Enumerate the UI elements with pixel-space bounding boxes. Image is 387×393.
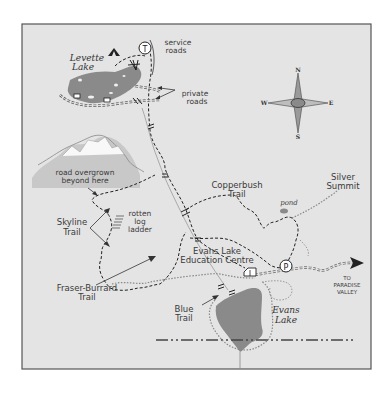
compass-south: S [296,133,300,140]
label-skyline-trail-2: Trail [62,227,80,237]
label-evans-lake-centre-2: Education Centre [180,255,253,265]
label-levette-lake-2: Lake [71,62,94,72]
label-to-paradise-valley-3: VALLEY [337,289,358,295]
label-skyline-trail: Skyline [57,217,87,227]
label-road-overgrown-2: beyond here [61,176,109,185]
label-to-paradise-valley: TO [342,275,351,281]
label-fraser-burrard-trail-2: Trail [77,292,95,302]
pond [280,209,288,214]
label-silver-summit-2: Summit [326,181,360,191]
label-service-roads-2: roads [166,46,187,55]
svg-text:T: T [142,45,148,54]
compass-north: N [295,66,301,73]
label-private-roads-2: roads [187,97,208,106]
trail-map: T P N S W [0,0,387,393]
label-copperbush-trail-2: Trail [227,189,245,199]
label-evans-lake-2: Lake [274,315,297,325]
map-frame [22,24,371,369]
svg-text:P: P [284,263,289,272]
compass-east: E [329,99,334,106]
telephone-icon: T [139,42,151,54]
parking-icon: P [280,260,292,272]
label-evans-lake: Evans [271,305,300,315]
label-blue-trail-2: Trail [174,313,192,323]
compass-west: W [260,99,268,106]
label-to-paradise-valley-2: PARADISE [334,282,361,288]
label-rotten-log-ladder-3: ladder [128,225,153,234]
label-pond: pond [280,199,298,207]
